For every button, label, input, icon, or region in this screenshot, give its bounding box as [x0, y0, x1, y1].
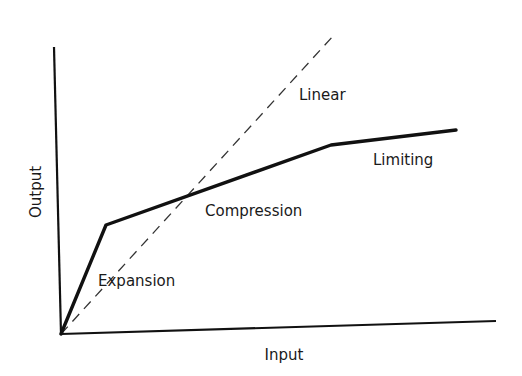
compander-transfer-diagram: Output Input Linear Limiting Compression… [0, 0, 522, 376]
x-axis-label: Input [265, 346, 304, 364]
label-limiting: Limiting [373, 151, 433, 169]
y-axis [54, 47, 61, 334]
label-compression: Compression [205, 202, 302, 220]
x-axis [61, 321, 496, 334]
y-axis-label: Output [27, 166, 45, 218]
label-expansion: Expansion [98, 272, 175, 290]
label-linear: Linear [299, 86, 346, 104]
